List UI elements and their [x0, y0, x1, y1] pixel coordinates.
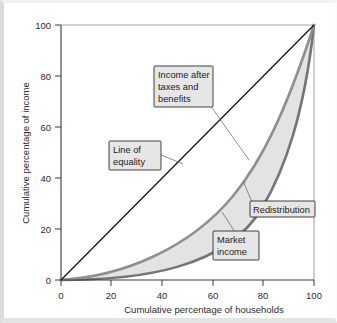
x-tick-label-100: 100 [306, 290, 322, 301]
y-tick-label-80: 80 [40, 71, 51, 82]
line-of-equality-line1: Line of [113, 145, 141, 155]
x-tick-label-80: 80 [258, 290, 269, 301]
income-after-taxes-line3: benefits [158, 94, 191, 104]
y-axis-ticks [55, 25, 61, 280]
y-tick-label-100: 100 [35, 20, 51, 31]
y-axis-title: Cumulative percentage of income [20, 82, 31, 224]
x-tick-label-20: 20 [106, 290, 117, 301]
line-of-equality-callout[interactable]: Line of equality [109, 141, 161, 170]
figure-page: 0 20 40 60 80 100 0 20 40 60 80 100 [0, 0, 337, 323]
income-after-taxes-line1: Income after [158, 70, 210, 80]
redistribution-callout[interactable]: Redistribution [250, 201, 315, 217]
line-of-equality-line2: equality [113, 157, 145, 167]
y-tick-label-40: 40 [40, 173, 51, 184]
lorenz-curve-figure: 0 20 40 60 80 100 0 20 40 60 80 100 [4, 3, 337, 323]
market-income-line2: income [217, 247, 247, 257]
income-after-taxes-line2: taxes and [158, 82, 198, 92]
x-tick-label-40: 40 [157, 290, 168, 301]
y-tick-label-20: 20 [40, 224, 51, 235]
redistribution-line1: Redistribution [253, 205, 310, 215]
x-axis-ticks [61, 280, 314, 286]
market-income-line1: Market [217, 235, 246, 245]
x-tick-label-0: 0 [58, 290, 63, 301]
income-after-taxes-callout[interactable]: Income after taxes and benefits [154, 66, 213, 107]
x-axis-title: Cumulative percentage of households [124, 304, 284, 315]
x-tick-label-60: 60 [208, 290, 219, 301]
y-tick-label-0: 0 [46, 275, 51, 286]
chart-svg: 0 20 40 60 80 100 0 20 40 60 80 100 [4, 3, 337, 323]
market-income-callout[interactable]: Market income [213, 231, 259, 260]
y-tick-label-60: 60 [40, 122, 51, 133]
